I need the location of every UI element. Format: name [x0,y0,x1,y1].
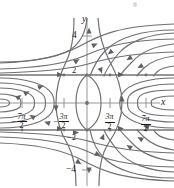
phase-portrait-canvas [0,0,174,188]
direction-arrows [15,28,149,174]
minus-sign: − [11,117,16,126]
x-tick-label-7pi-2: 7π 2 [140,111,151,133]
phase-portrait-figure: y x 4 −4 2 −2 − 7π 2 − 3π 2 3π 2 [0,0,174,188]
separatrix-left-branch [56,18,76,186]
flow-curve [120,44,174,76]
axes-group [0,18,160,186]
critical-point [63,74,66,77]
flow-arrow [23,89,31,96]
fraction-denominator: 2 [105,123,115,131]
critical-point [85,128,88,131]
critical-points [21,73,148,131]
flow-arrow [118,72,124,77]
critical-point [145,74,148,77]
critical-point [85,101,89,105]
y-tick-label-4: 4 [72,31,77,41]
flow-arrow [98,67,105,74]
y-axis-label: y [82,14,86,24]
x-axis-label: x [161,97,165,107]
flow-arrow [43,119,50,126]
fraction-denominator: 2 [141,125,151,133]
asymptote-label-2: 2 [72,66,76,75]
flow-arrow [91,41,99,48]
flow-curve [154,130,174,140]
x-tick-label-3pi-2: 3π 2 [104,109,115,131]
fraction-denominator: 2 [17,122,27,130]
fraction-denominator: 2 [59,122,69,130]
critical-point [85,73,88,76]
x-tick-label-minus-3pi-2: − 3π 2 [53,111,69,130]
minus-sign: − [53,117,58,126]
x-tick-label-minus-7pi-2: − 7π 2 [11,111,27,130]
flow-curve [87,75,101,130]
asymptote-label-minus-2: −2 [67,133,76,142]
critical-point [109,74,112,77]
y-tick-label-minus-4: −4 [66,165,76,175]
